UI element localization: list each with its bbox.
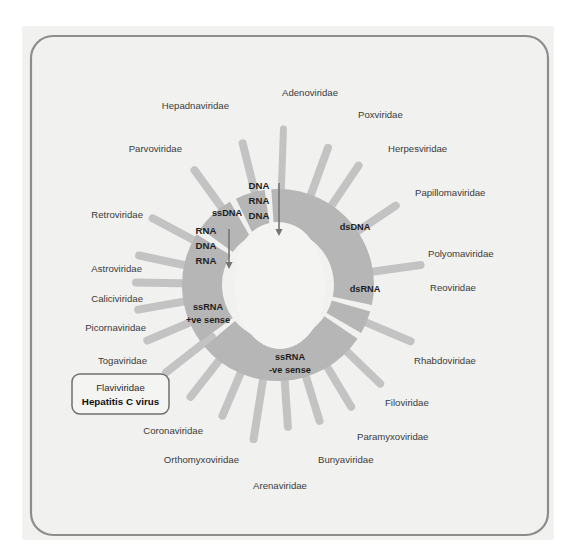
virus-classification-figure: dsDNAdsRNAssRNA-ve sensessRNA+ve sensess…: [0, 0, 576, 556]
highlight-family-name: Flaviviridae: [96, 382, 145, 393]
family-label-herpesviridae[interactable]: Herpesviridae: [388, 143, 447, 154]
family-label-rhabdoviridae[interactable]: Rhabdoviridae: [414, 355, 476, 366]
flaviviridae-highlight-box[interactable]: FlaviviridaeHepatitis C virus: [72, 374, 169, 414]
highlight-virus-name: Hepatitis C virus: [82, 396, 160, 407]
segment-label-dsdna: dsDNA: [340, 222, 371, 232]
family-label-paramyxoviridae[interactable]: Paramyxoviridae: [357, 431, 428, 442]
segment-label-ssrnapos_1: ssRNA: [193, 302, 223, 312]
family-label-poxviridae[interactable]: Poxviridae: [358, 109, 403, 120]
virus-wheel-diagram: dsDNAdsRNAssRNA-ve sensessRNA+ve sensess…: [0, 0, 576, 556]
family-label-caliciviridae[interactable]: Caliciviridae: [91, 293, 143, 304]
family-label-astroviridae[interactable]: Astroviridae: [91, 263, 142, 274]
segment-label-ssrnapos_2: +ve sense: [186, 315, 230, 325]
segment-label-ssdna: ssDNA: [212, 208, 242, 218]
family-label-orthomyxoviridae[interactable]: Orthomyxoviridae: [164, 454, 239, 465]
family-label-papillomaviridae[interactable]: Papillomaviridae: [415, 187, 485, 198]
segment-label-dsrna: dsRNA: [350, 284, 381, 294]
retro-flow-line: RNA: [196, 255, 217, 266]
highlight-box-outline[interactable]: [72, 374, 169, 414]
center-hole: [235, 222, 325, 349]
segment-label-ssrnaneg_2: -ve sense: [269, 365, 311, 375]
family-label-retroviridae[interactable]: Retroviridae: [91, 209, 143, 220]
family-label-reoviridae[interactable]: Reoviridae: [430, 282, 476, 293]
retro-flow-line: RNA: [196, 225, 217, 236]
hepadna-flow-line: RNA: [249, 195, 270, 206]
family-label-parvoviridae[interactable]: Parvoviridae: [129, 143, 182, 154]
hepadna-flow-line: DNA: [249, 210, 270, 221]
family-label-filoviridae[interactable]: Filoviridae: [385, 397, 429, 408]
family-label-arenaviridae[interactable]: Arenaviridae: [253, 480, 307, 491]
family-label-coronaviridae[interactable]: Coronaviridae: [143, 425, 203, 436]
family-label-adenoviridae[interactable]: Adenoviridae: [282, 87, 338, 98]
retro-flow-line: DNA: [196, 240, 217, 251]
family-label-togaviridae[interactable]: Togaviridae: [98, 355, 147, 366]
segment-label-ssrnaneg_1: ssRNA: [275, 352, 305, 362]
family-label-picornaviridae[interactable]: Picornaviridae: [85, 322, 146, 333]
hepadna-flow-line: DNA: [249, 180, 270, 191]
family-label-hepadnaviridae[interactable]: Hepadnaviridae: [162, 100, 229, 111]
family-label-bunyaviridae[interactable]: Bunyaviridae: [318, 454, 373, 465]
family-label-polyomaviridae[interactable]: Polyomaviridae: [428, 248, 494, 259]
